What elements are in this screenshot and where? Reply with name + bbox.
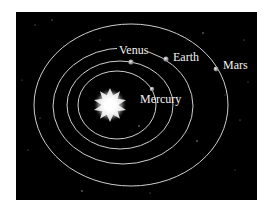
planet-mercury — [150, 87, 154, 91]
sun-icon — [93, 88, 127, 122]
label-mars: Mars — [223, 58, 248, 72]
planet-venus — [128, 59, 133, 64]
space-background — [16, 12, 257, 200]
label-venus: Venus — [119, 43, 149, 57]
label-earth: Earth — [173, 50, 199, 64]
label-mercury: Mercury — [140, 92, 181, 106]
solar-system-diagram: Mercury Venus Earth Mars — [0, 0, 271, 211]
planet-mars — [214, 67, 219, 72]
planet-earth — [163, 56, 168, 61]
